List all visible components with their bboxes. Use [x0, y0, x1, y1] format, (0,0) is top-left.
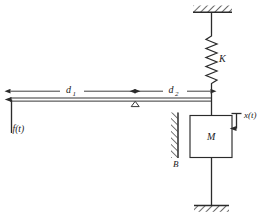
spring [206, 33, 217, 92]
lever-beam [11, 98, 212, 101]
damper-wall [171, 113, 178, 159]
mechanical-system-diagram: K d 1 d 2 f(t [0, 0, 270, 221]
displacement-arrow [232, 114, 242, 129]
ground-support [194, 206, 229, 212]
ground-hatch-fill [194, 206, 229, 212]
ceiling-support [193, 6, 232, 34]
fulcrum-triangle [131, 101, 139, 106]
dimension-d2-letter: d [169, 84, 175, 95]
fulcrum [131, 101, 139, 106]
damper-hatch-fill [171, 113, 178, 159]
dimension-d2-subscript: 2 [175, 90, 179, 98]
dimension-d2-label: d 2 [169, 84, 180, 98]
spring-label: K [218, 53, 227, 64]
mass-label: M [206, 131, 216, 142]
dimension-d1-label: d 1 [66, 84, 76, 98]
spring-coil [206, 33, 217, 92]
figure-canvas: K d 1 d 2 f(t [0, 0, 270, 221]
damper-label: B [173, 159, 179, 169]
lever-beam-body [11, 98, 212, 101]
force-label: f(t) [13, 124, 25, 135]
dimension-d1-subscript: 1 [73, 90, 77, 98]
displacement-label: x(t) [243, 110, 257, 120]
ceiling-hatch-fill [193, 6, 232, 13]
dimension-d1-letter: d [66, 84, 72, 95]
